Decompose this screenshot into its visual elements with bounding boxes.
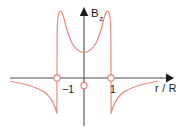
curve-left-exterior [11,78,57,113]
tick-label-plus-one: 1 [110,83,116,95]
plot-canvas: B z r / R −1 1 [0,0,190,134]
figure-container: B z r / R −1 1 [0,0,190,134]
tick-label-minus-one: −1 [62,83,74,95]
open-circle-marker-origin [81,82,87,88]
x-axis-label: r / R [155,82,177,94]
y-axis-label-main: B [91,7,99,19]
y-axis-label-subscript: z [100,14,104,23]
open-circle-marker-minus-one [54,75,60,81]
up-arrow-icon [80,7,88,16]
open-circle-marker-plus-one [108,75,114,81]
curve-right-exterior [111,78,157,113]
